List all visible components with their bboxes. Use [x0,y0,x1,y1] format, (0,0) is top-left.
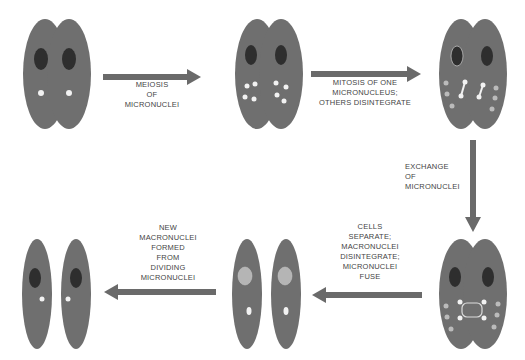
stage-3-after-mitosis [438,18,508,130]
step-label-mitosis: MITOSIS OF ONEMICRONUCLEUS;OTHERS DISINT… [310,78,420,108]
step-label-meiosis: MEIOSISOFMICRONUCLEI [112,80,192,110]
arrow-down [465,140,481,236]
stage-2-after-meiosis [234,18,304,130]
step-label-cells-separate: CELLSSEPARATE;MACRONUCLEI DISINTEGRATE;M… [330,222,410,282]
step-label-new-macronuclei: NEWMACRONUCLEIFORMED FROMDIVIDINGMICRONU… [128,223,208,283]
arrow-left-1 [312,287,422,307]
stage-5-separated-cells [230,238,302,350]
step-label-exchange: EXCHANGEOFMICRONUCLEI [405,162,465,192]
stage-4-after-exchange [438,238,508,350]
stage-6-final-cells [20,238,92,350]
arrow-left-2 [104,284,216,304]
stage-1-conjugating-pair [22,18,92,130]
